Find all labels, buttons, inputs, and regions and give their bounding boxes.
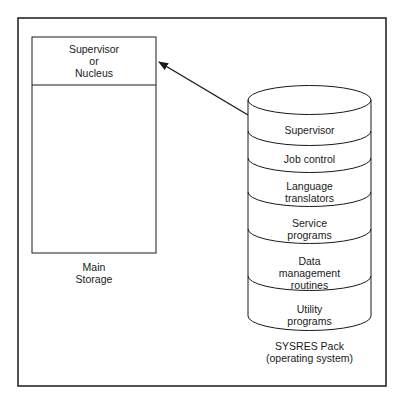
label-line: Utility bbox=[248, 303, 371, 315]
label-line: programs bbox=[248, 315, 371, 327]
label-line: Supervisor bbox=[248, 124, 371, 136]
label-line: programs bbox=[248, 229, 371, 241]
label-line: Job control bbox=[248, 153, 371, 165]
label-line: routines bbox=[248, 279, 371, 291]
label-line: management bbox=[248, 267, 371, 279]
sysres-cylinder bbox=[248, 86, 371, 331]
main-storage-caption: Main Storage bbox=[32, 261, 156, 285]
label-line: Main bbox=[32, 261, 156, 273]
label-line: SYSRES Pack bbox=[240, 340, 379, 352]
sysres-job-control-layer: Job control bbox=[248, 153, 371, 165]
main-storage-supervisor: Supervisor or Nucleus bbox=[32, 43, 156, 79]
arrow-to-main-storage bbox=[159, 62, 248, 115]
label-line: Service bbox=[248, 217, 371, 229]
sysres-supervisor-layer: Supervisor bbox=[248, 124, 371, 136]
sysres-service-programs-layer: Service programs bbox=[248, 217, 371, 241]
label-line: (operating system) bbox=[240, 352, 379, 364]
label-line: or bbox=[32, 55, 156, 67]
sysres-utility-programs-layer: Utility programs bbox=[248, 303, 371, 327]
label-line: Storage bbox=[32, 273, 156, 285]
label-line: translators bbox=[248, 192, 371, 204]
label-line: Nucleus bbox=[32, 67, 156, 79]
label-line: Data bbox=[248, 255, 371, 267]
label-line: Supervisor bbox=[32, 43, 156, 55]
sysres-caption: SYSRES Pack (operating system) bbox=[240, 340, 379, 364]
label-line: Language bbox=[248, 180, 371, 192]
sysres-language-translators-layer: Language translators bbox=[248, 180, 371, 204]
sysres-data-management-layer: Data management routines bbox=[248, 255, 371, 291]
